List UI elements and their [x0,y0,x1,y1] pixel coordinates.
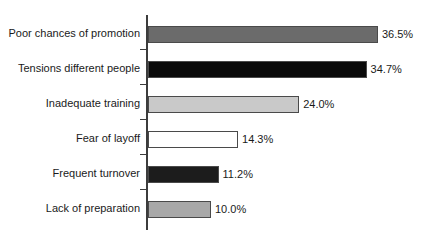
bar-row: Tensions different people 34.7% [0,53,447,87]
bar-rect [148,131,238,148]
bar-value-label: 34.7% [371,62,402,76]
bar-rect [148,201,211,218]
bar-category-label: Tensions different people [0,61,140,75]
bar-value-label: 11.2% [223,167,253,181]
bar-row: Fear of layoff 14.3% [0,123,447,157]
bar-category-label: Fear of layoff [0,131,140,145]
bar-chart: Poor chances of promotion 36.5% Tensions… [0,0,447,246]
bar-value-label: 10.0% [215,202,246,216]
bar-rect [148,96,299,113]
bar-value-label: 14.3% [242,132,273,146]
bar-category-label: Frequent turnover [0,166,140,180]
bar-category-label: Inadequate training [0,96,140,110]
bar-category-label: Lack of preparation [0,201,140,215]
bar-row: Frequent turnover 11.2% [0,158,447,192]
bar-value-label: 36.5% [382,27,413,41]
bar-row: Inadequate training 24.0% [0,88,447,122]
bar-rect [148,61,367,78]
bar-category-label: Poor chances of promotion [0,26,140,40]
bar-row: Lack of preparation 10.0% [0,193,447,227]
bar-value-label: 24.0% [303,97,334,111]
bar-row: Poor chances of promotion 36.5% [0,18,447,52]
bar-rect [148,26,378,43]
bar-rect [148,166,219,183]
